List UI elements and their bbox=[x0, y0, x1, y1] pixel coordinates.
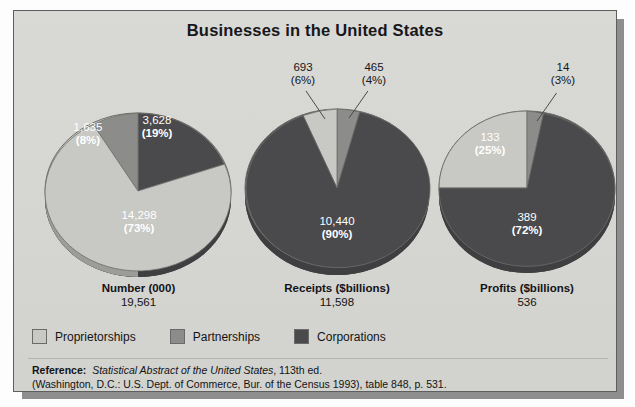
legend-label: Corporations bbox=[317, 330, 386, 344]
caption-total: 11,598 bbox=[237, 295, 437, 309]
caption-total: 19,561 bbox=[36, 295, 241, 309]
slice-proprietorships bbox=[439, 111, 527, 188]
pie-caption-number: Number (000) 19,561 bbox=[36, 281, 241, 309]
reference-edition: , 113th ed. bbox=[273, 364, 322, 376]
legend-item-corporations: Corporations bbox=[294, 329, 386, 344]
chart-legend: Proprietorships Partnerships Corporation… bbox=[32, 329, 386, 344]
chart-panel: Businesses in the United States 3,628 bbox=[13, 10, 617, 392]
caption-title: Number (000) bbox=[36, 281, 241, 295]
caption-title: Receipts ($billions) bbox=[237, 281, 437, 295]
legend-item-partnerships: Partnerships bbox=[170, 329, 260, 344]
reference-label: Reference: bbox=[32, 364, 86, 376]
callout-partnerships: 14 (3%) bbox=[530, 61, 596, 87]
legend-item-proprietorships: Proprietorships bbox=[32, 329, 136, 344]
slice-value: 14 bbox=[557, 61, 570, 73]
reference-note: Reference: Statistical Abstract of the U… bbox=[32, 363, 604, 391]
slice-percent: (3%) bbox=[530, 74, 596, 87]
slice-value: 465 bbox=[364, 61, 383, 73]
legend-swatch-corporations-icon bbox=[294, 329, 309, 344]
chart-page: Businesses in the United States 3,628 bbox=[0, 0, 635, 407]
legend-label: Proprietorships bbox=[55, 330, 136, 344]
slice-percent: (6%) bbox=[268, 74, 338, 87]
pie-profits-svg bbox=[432, 93, 622, 281]
pie-chart-profits: 133 (25%) 14 (3%) 389 (72%) bbox=[432, 93, 622, 281]
pie-chart-number: 3,628 (19%) 1,635 (8%) 14,298 (73%) bbox=[36, 96, 241, 281]
legend-swatch-proprietorships-icon bbox=[32, 329, 47, 344]
slice-percent: (4%) bbox=[339, 74, 409, 87]
reference-divider bbox=[28, 358, 608, 359]
reference-line-1: Reference: Statistical Abstract of the U… bbox=[32, 363, 604, 377]
legend-label: Partnerships bbox=[193, 330, 260, 344]
legend-swatch-partnerships-icon bbox=[170, 329, 185, 344]
callout-partnerships: 465 (4%) bbox=[339, 61, 409, 87]
caption-title: Profits ($billions) bbox=[432, 281, 622, 295]
reference-line-2: (Washington, D.C.: U.S. Dept. of Commerc… bbox=[32, 377, 604, 391]
pie-receipts-svg bbox=[237, 91, 437, 281]
pie-caption-receipts: Receipts ($billions) 11,598 bbox=[237, 281, 437, 309]
pie-number-svg bbox=[36, 96, 241, 281]
pie-chart-receipts: 693 (6%) 465 (4%) 10,440 (90%) bbox=[237, 91, 437, 281]
slice-value: 693 bbox=[293, 61, 312, 73]
callout-proprietorships: 693 (6%) bbox=[268, 61, 338, 87]
reference-source-title: Statistical Abstract of the United State… bbox=[92, 364, 273, 376]
caption-total: 536 bbox=[432, 295, 622, 309]
page-title: Businesses in the United States bbox=[14, 21, 616, 40]
pie-caption-profits: Profits ($billions) 536 bbox=[432, 281, 622, 309]
